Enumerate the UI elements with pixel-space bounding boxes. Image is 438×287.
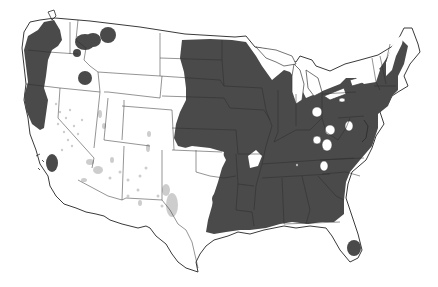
us-range-map (0, 0, 438, 287)
range-texas-patch (212, 193, 222, 205)
range-idaho-north-3 (73, 49, 81, 57)
range-idaho-central (78, 71, 92, 85)
range-montana-patch (100, 27, 116, 43)
range-florida-patch (347, 240, 361, 256)
range-southern-california (46, 154, 58, 172)
range-idaho-north-2 (85, 33, 101, 47)
